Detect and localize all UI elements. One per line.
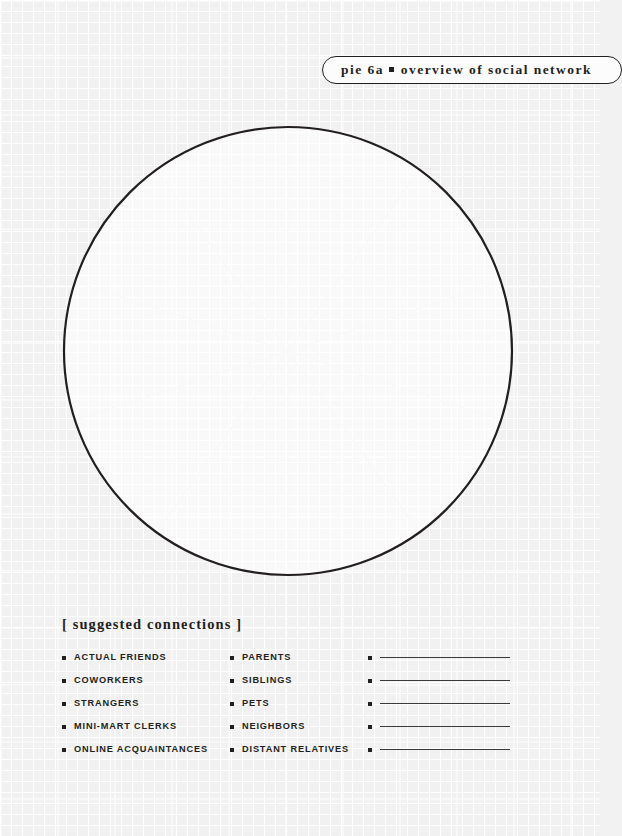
legend-item-label: ONLINE ACQUAINTANCES bbox=[74, 745, 208, 754]
page-title: overview of social network bbox=[401, 63, 592, 77]
square-bullet-icon bbox=[368, 679, 372, 683]
legend-item-label: COWORKERS bbox=[74, 676, 143, 685]
legend-write-in-item[interactable] bbox=[368, 692, 532, 715]
legend-item[interactable]: NEIGHBORS bbox=[230, 715, 368, 738]
legend-item-label: SIBLINGS bbox=[242, 676, 292, 685]
square-bullet-icon bbox=[62, 702, 66, 706]
square-bullet-icon bbox=[230, 679, 234, 683]
legend-title: [ suggested connections ] bbox=[62, 616, 532, 633]
write-in-line[interactable] bbox=[380, 680, 510, 681]
legend-grid: ACTUAL FRIENDS PARENTS COWORKERS SIBLING… bbox=[62, 646, 532, 761]
square-bullet-icon bbox=[62, 679, 66, 683]
pie-outline-circle bbox=[64, 127, 512, 575]
legend-item-label: PETS bbox=[242, 699, 269, 708]
legend-write-in-item[interactable] bbox=[368, 646, 532, 669]
legend-item[interactable]: DISTANT RELATIVES bbox=[230, 738, 368, 761]
square-bullet-icon bbox=[230, 725, 234, 729]
square-bullet-icon bbox=[368, 725, 372, 729]
legend-write-in-item[interactable] bbox=[368, 669, 532, 692]
legend-write-in-item[interactable] bbox=[368, 715, 532, 738]
legend-item[interactable]: SIBLINGS bbox=[230, 669, 368, 692]
square-bullet-icon bbox=[368, 748, 372, 752]
legend-item[interactable]: ACTUAL FRIENDS bbox=[62, 646, 230, 669]
square-bullet-icon bbox=[368, 656, 372, 660]
legend-item-label: ACTUAL FRIENDS bbox=[74, 653, 166, 662]
square-bullet-icon bbox=[62, 656, 66, 660]
square-bullet-icon bbox=[62, 725, 66, 729]
write-in-line[interactable] bbox=[380, 749, 510, 750]
write-in-line[interactable] bbox=[380, 657, 510, 658]
legend-item[interactable]: STRANGERS bbox=[62, 692, 230, 715]
legend-section: [ suggested connections ] ACTUAL FRIENDS… bbox=[62, 616, 532, 761]
write-in-line[interactable] bbox=[380, 703, 510, 704]
legend-item-label: STRANGERS bbox=[74, 699, 139, 708]
square-bullet-icon bbox=[389, 67, 394, 72]
square-bullet-icon bbox=[230, 656, 234, 660]
legend-item-label: DISTANT RELATIVES bbox=[242, 745, 349, 754]
write-in-line[interactable] bbox=[380, 726, 510, 727]
legend-item[interactable]: MINI-MART CLERKS bbox=[62, 715, 230, 738]
legend-item-label: MINI-MART CLERKS bbox=[74, 722, 177, 731]
legend-item-label: PARENTS bbox=[242, 653, 291, 662]
page-title-number: pie 6a bbox=[341, 63, 384, 77]
square-bullet-icon bbox=[62, 748, 66, 752]
square-bullet-icon bbox=[230, 748, 234, 752]
pie-chart-svg bbox=[60, 118, 520, 588]
legend-write-in-item[interactable] bbox=[368, 738, 532, 761]
square-bullet-icon bbox=[368, 702, 372, 706]
header-tab-content: pie 6a overview of social network bbox=[323, 57, 621, 83]
legend-item[interactable]: PETS bbox=[230, 692, 368, 715]
legend-item[interactable]: PARENTS bbox=[230, 646, 368, 669]
legend-item[interactable]: COWORKERS bbox=[62, 669, 230, 692]
legend-item-label: NEIGHBORS bbox=[242, 722, 305, 731]
header-tab: pie 6a overview of social network bbox=[322, 56, 622, 84]
pie-chart bbox=[60, 118, 520, 588]
square-bullet-icon bbox=[230, 702, 234, 706]
legend-item[interactable]: ONLINE ACQUAINTANCES bbox=[62, 738, 230, 761]
